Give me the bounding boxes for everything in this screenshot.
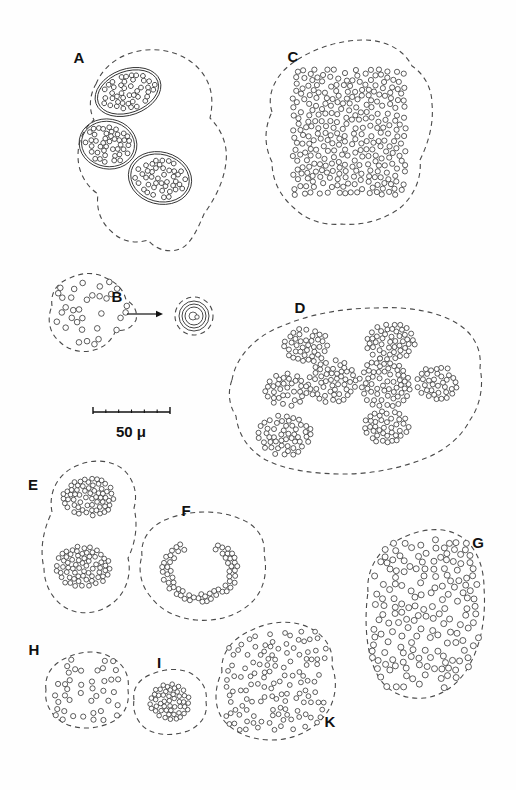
granule — [369, 134, 374, 139]
granule — [319, 374, 324, 379]
granule — [376, 617, 382, 623]
granule — [232, 674, 237, 679]
granule — [331, 366, 336, 371]
granule — [89, 149, 95, 155]
granule — [276, 381, 281, 386]
granule — [102, 510, 107, 515]
granule — [306, 134, 311, 139]
granule — [460, 590, 466, 596]
granule — [377, 364, 382, 369]
granule — [281, 381, 286, 386]
granule — [465, 664, 471, 670]
granule — [372, 601, 378, 607]
granule — [336, 399, 341, 404]
granule — [306, 343, 311, 348]
granule — [310, 108, 315, 113]
panels-layer — [42, 40, 484, 740]
granule — [451, 547, 457, 553]
granule — [182, 711, 187, 716]
granule — [388, 339, 393, 344]
granule — [474, 581, 480, 587]
granule — [126, 138, 132, 144]
granule — [322, 656, 327, 661]
granule — [295, 69, 300, 74]
granule — [382, 93, 387, 98]
granule — [451, 584, 457, 590]
granule — [289, 436, 294, 441]
granule — [385, 327, 390, 332]
granule — [331, 155, 336, 160]
granule — [382, 138, 387, 143]
granule — [433, 574, 439, 580]
granule — [96, 575, 101, 580]
granule — [308, 146, 313, 151]
granule — [311, 184, 316, 189]
granule — [237, 727, 242, 732]
granule — [370, 402, 375, 407]
granule — [359, 132, 364, 137]
granule — [304, 384, 309, 389]
granule — [353, 126, 358, 131]
granule — [56, 556, 61, 561]
granule — [308, 71, 313, 76]
granule — [403, 163, 408, 168]
granule — [60, 551, 65, 556]
granule — [467, 552, 473, 558]
granule — [401, 368, 406, 373]
granule — [296, 121, 301, 126]
granule — [422, 647, 428, 653]
granule — [64, 570, 69, 575]
granule — [89, 698, 94, 703]
granule — [394, 146, 399, 151]
granule — [109, 677, 114, 682]
granule — [364, 102, 369, 107]
granule — [313, 377, 318, 382]
granule — [403, 665, 409, 671]
granule — [445, 673, 451, 679]
granule — [102, 678, 107, 683]
granule — [282, 673, 287, 678]
granule — [98, 565, 103, 570]
cyst-core-granule — [195, 315, 199, 319]
granule — [367, 190, 372, 195]
granule — [375, 391, 380, 396]
granule — [253, 644, 258, 649]
granule — [313, 690, 318, 695]
panel-D — [229, 308, 481, 474]
granule — [450, 391, 455, 396]
granule — [379, 192, 384, 197]
granule — [398, 322, 403, 327]
granule — [317, 162, 322, 167]
panel-H — [46, 652, 129, 728]
granule — [435, 632, 441, 638]
granule — [87, 583, 92, 588]
granule — [334, 120, 339, 125]
granule — [330, 96, 335, 101]
granule — [424, 388, 429, 393]
granule — [378, 559, 384, 565]
granule — [296, 356, 301, 361]
panel-F — [140, 512, 265, 620]
granule — [62, 501, 67, 506]
granule — [95, 499, 100, 504]
granule — [257, 662, 262, 667]
granule — [416, 662, 422, 668]
granule — [337, 165, 342, 170]
granule — [297, 670, 302, 675]
granule — [117, 152, 123, 158]
granule — [277, 679, 282, 684]
granule — [333, 358, 338, 363]
granule — [390, 657, 396, 663]
granule — [60, 295, 66, 301]
granule — [397, 153, 402, 158]
granule — [404, 353, 409, 358]
granule — [444, 572, 450, 578]
granule — [316, 112, 321, 117]
granule — [387, 144, 392, 149]
granule — [378, 72, 383, 77]
granule — [299, 680, 304, 685]
granule — [434, 367, 439, 372]
granule — [380, 186, 385, 191]
granule — [317, 344, 322, 349]
granule — [388, 181, 393, 186]
